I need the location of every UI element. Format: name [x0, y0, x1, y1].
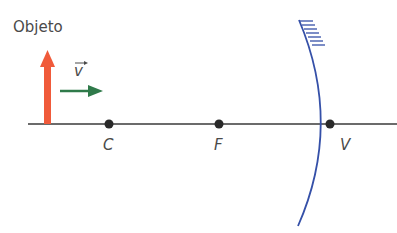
vertex-point — [326, 120, 335, 129]
object-label: Objeto — [13, 18, 63, 36]
center-point — [105, 120, 114, 129]
velocity-arrow — [60, 85, 103, 97]
object-arrow — [40, 50, 55, 124]
velocity-label: v — [74, 62, 83, 80]
focus-point — [215, 120, 224, 129]
diagram-canvas: Objeto v C F V — [0, 0, 397, 233]
center-label: C — [103, 136, 113, 154]
vertex-label: V — [340, 136, 350, 154]
concave-mirror — [298, 20, 321, 226]
focus-label: F — [214, 136, 223, 154]
